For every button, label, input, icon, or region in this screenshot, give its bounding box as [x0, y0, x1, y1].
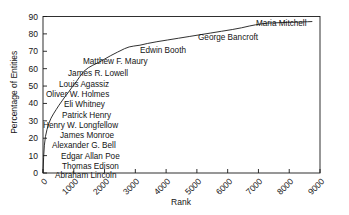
- data-point-annotation: Oliver W. Holmes: [46, 91, 109, 99]
- data-point-annotation: Edwin Booth: [140, 47, 186, 55]
- data-point-annotation: Matthew F. Maury: [83, 58, 148, 66]
- data-point-annotation: Thomas Edison: [62, 163, 119, 171]
- chart-figure: 0102030405060708090 01000200030004000500…: [0, 0, 349, 215]
- data-point-annotation: Patrick Henry: [62, 112, 111, 120]
- data-point-annotation: Henry W. Longfellow: [43, 122, 118, 130]
- y-tick-label: 0: [12, 169, 38, 178]
- data-point-annotation: James Monroe: [60, 132, 114, 140]
- plot-canvas: [0, 0, 349, 215]
- data-point-annotation: Abraham Lincoln: [55, 172, 116, 180]
- y-axis-title: Percentage of Entities: [10, 37, 19, 147]
- x-axis-title: Rank: [141, 198, 221, 207]
- data-point-annotation: Edgar Allan Poe: [61, 153, 120, 161]
- data-point-annotation: George Bancroft: [198, 34, 258, 42]
- y-tick-label: 90: [12, 12, 38, 21]
- data-point-annotation: Eli Whitney: [64, 101, 105, 109]
- data-point-annotation: James R. Lowell: [68, 70, 128, 78]
- data-point-annotation: Maria Mitchell: [256, 20, 307, 28]
- data-point-annotation: Louis Agassiz: [59, 81, 109, 89]
- data-point-annotation: Alexander G. Bell: [52, 142, 116, 150]
- y-tick-label: 10: [12, 151, 38, 160]
